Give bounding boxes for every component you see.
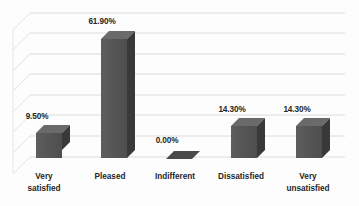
bar-side-face bbox=[127, 31, 135, 158]
bar-group-very-unsatisfied[interactable] bbox=[296, 118, 344, 158]
depth-edge-10 bbox=[13, 136, 30, 153]
bar-front-face bbox=[231, 126, 257, 158]
depth-edge-40 bbox=[13, 74, 30, 91]
bar-front-face bbox=[296, 126, 322, 158]
category-label-very-satisfied: Very satisfied bbox=[13, 171, 75, 194]
data-label-pleased: 61.90% bbox=[78, 17, 126, 26]
depth-edge-70 bbox=[13, 13, 30, 30]
category-label-line: Pleased bbox=[79, 171, 141, 183]
category-label-line: Dissatisfied bbox=[208, 171, 274, 183]
data-label-very-unsatisfied: 14.30% bbox=[273, 105, 321, 114]
category-label-indifferent: Indifferent bbox=[142, 171, 208, 183]
bar-front-face bbox=[101, 39, 127, 158]
chart-container: 9.50% 61.90% 0.00% 14.30% 14.30% Very sa… bbox=[0, 0, 359, 206]
bar-top-face bbox=[166, 150, 200, 159]
bar-front-face bbox=[36, 133, 62, 158]
category-label-line: Indifferent bbox=[142, 171, 208, 183]
depth-edge-50 bbox=[13, 54, 30, 71]
bar-group-dissatisfied[interactable] bbox=[231, 118, 279, 158]
category-label-pleased: Pleased bbox=[79, 171, 141, 183]
category-label-line: unsatisfied bbox=[271, 183, 345, 195]
category-label-dissatisfied: Dissatisfied bbox=[208, 171, 274, 183]
data-label-dissatisfied: 14.30% bbox=[208, 105, 256, 114]
data-label-very-satisfied: 9.50% bbox=[13, 112, 61, 121]
depth-edge-60 bbox=[13, 33, 30, 50]
category-label-very-unsatisfied: Very unsatisfied bbox=[271, 171, 345, 194]
bar-group-pleased[interactable] bbox=[101, 31, 149, 158]
category-label-line: satisfied bbox=[13, 183, 75, 195]
depth-edge-30 bbox=[13, 95, 30, 112]
bar-group-very-satisfied[interactable] bbox=[36, 125, 84, 158]
data-label-indifferent: 0.00% bbox=[143, 136, 191, 145]
category-label-line: Very bbox=[13, 171, 75, 183]
bar-group-indifferent[interactable] bbox=[166, 150, 214, 160]
category-label-line: Very bbox=[271, 171, 345, 183]
